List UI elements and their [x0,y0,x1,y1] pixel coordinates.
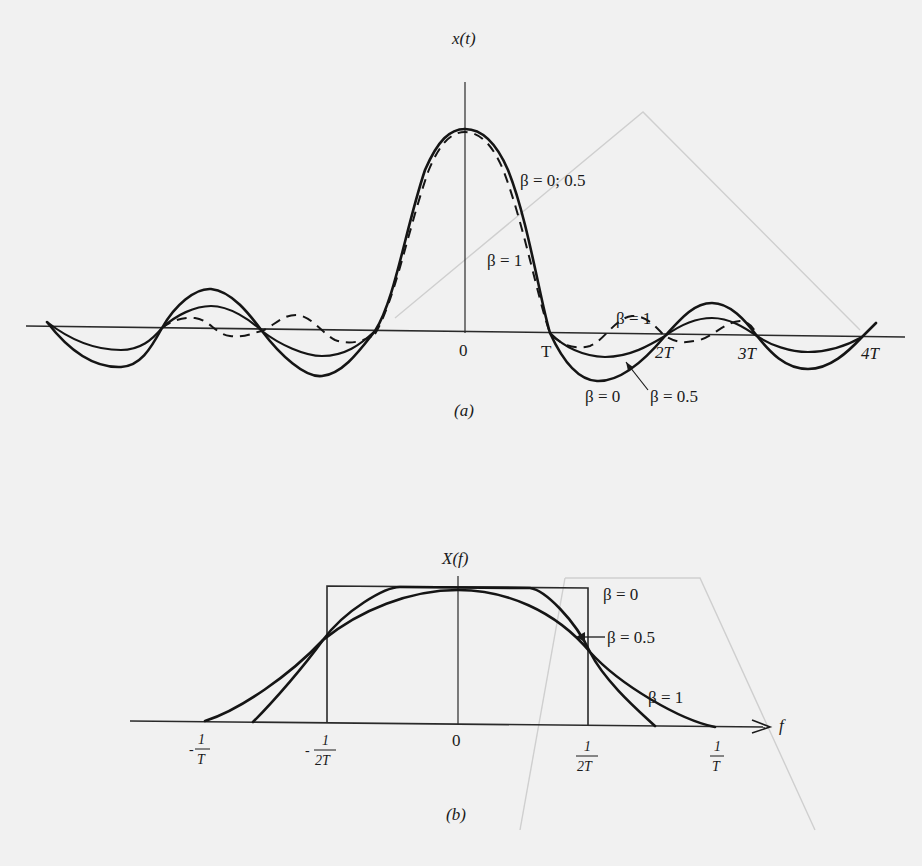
annotation-b-beta-0: β = 0 [603,585,638,604]
annotation-beta-0-5: β = 0.5 [650,387,698,406]
svg-text:1: 1 [584,739,591,754]
panel-b-x-axis [130,721,765,727]
svg-text:1: 1 [198,732,205,747]
annotation-beta-1-side: β = 1 [616,309,651,328]
annotation-beta-1-main: β = 1 [487,251,522,270]
annotation-b-beta-0-5: β = 0.5 [607,628,655,647]
svg-text:T: T [712,759,721,774]
curve-b-beta-1 [205,590,715,727]
panel-a-y-label: x(t) [451,29,476,48]
curve-a-beta-1 [375,132,757,347]
annotation-beta-0-0-5: β = 0; 0.5 [520,171,585,190]
annotation-b-beta-1: β = 1 [648,688,683,707]
svg-text:2T: 2T [315,753,331,768]
tick-b-neg-1-over-T: - 1 T [189,732,210,767]
svg-text:-: - [189,742,194,757]
tick-b-0: 0 [452,731,461,750]
svg-text:1: 1 [714,739,721,754]
panel-a: x(t) β = 0; 0.5 β = 1 β = 1 β = 0 β = 0.… [26,29,905,420]
panel-b-x-label: f [779,716,786,735]
annotation-beta-0: β = 0 [585,387,620,406]
tick-a-4T: 4T [861,344,881,363]
tick-a-2T: 2T [655,343,675,362]
svg-text:1: 1 [322,733,329,748]
tick-a-T: T [541,342,552,361]
tick-b-1-over-T: 1 T [710,739,724,774]
tick-a-3T: 3T [737,344,758,363]
svg-text:-: - [305,743,310,758]
tick-a-0: 0 [459,341,468,360]
tick-b-neg-1-over-2T: - 1 2T [305,733,336,768]
caption-a: (a) [454,401,474,420]
panel-b-y-label: X(f) [441,549,469,568]
tick-b-1-over-2T: 1 2T [576,739,598,774]
raised-cosine-figure: x(t) β = 0; 0.5 β = 1 β = 1 β = 0 β = 0.… [0,0,922,866]
panel-b: f X(f) β = 0 β = 0.5 β = 1 - 1 T - 1 2T … [130,549,786,824]
svg-text:2T: 2T [577,759,593,774]
caption-b: (b) [446,805,466,824]
svg-text:T: T [197,752,206,767]
